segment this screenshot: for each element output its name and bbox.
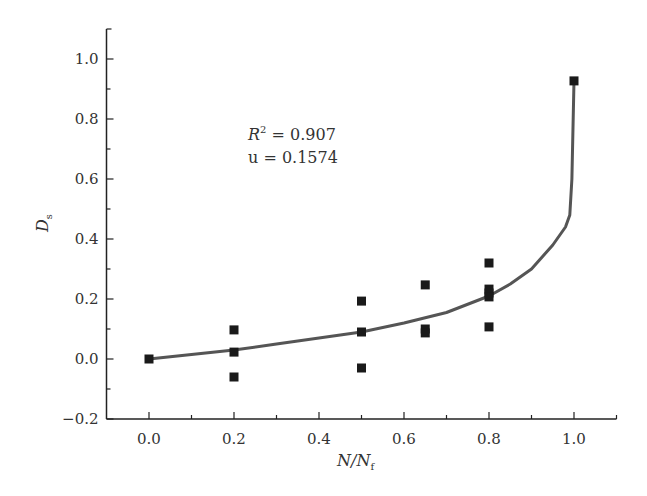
data-point-marker <box>421 328 430 337</box>
y-axis-label: Ds <box>33 214 54 233</box>
data-points <box>145 76 579 381</box>
annotation-r2: R2 = 0.907 <box>247 124 336 144</box>
y-tick-label: 0.4 <box>75 230 99 248</box>
annotation-u: u = 0.1574 <box>248 148 338 167</box>
chart: 0.00.20.40.60.81.0−0.20.00.20.40.60.81.0… <box>0 0 647 496</box>
y-tick-label: −0.2 <box>62 410 98 428</box>
data-point-marker <box>485 322 494 331</box>
x-tick-label: 0.2 <box>222 430 246 448</box>
y-tick-label: 0.0 <box>75 350 99 368</box>
data-point-marker <box>145 355 154 364</box>
data-point-marker <box>570 76 579 85</box>
data-point-marker <box>421 280 430 289</box>
data-point-marker <box>485 259 494 268</box>
x-tick-label: 0.0 <box>137 430 161 448</box>
data-point-marker <box>485 292 494 301</box>
x-axis-label: N/Nf <box>336 451 375 472</box>
x-tick-label: 0.6 <box>392 430 416 448</box>
fit-line-path <box>149 81 574 359</box>
y-tick-label: 0.6 <box>75 170 99 188</box>
data-point-marker <box>230 373 239 382</box>
y-tick-label: 0.8 <box>75 110 99 128</box>
data-point-marker <box>357 297 366 306</box>
x-tick-label: 0.8 <box>477 430 501 448</box>
x-tick-label: 0.4 <box>307 430 331 448</box>
svg-text:Ds: Ds <box>33 214 54 233</box>
data-point-marker <box>230 325 239 334</box>
y-tick-label: 0.2 <box>75 290 99 308</box>
axes: 0.00.20.40.60.81.0−0.20.00.20.40.60.81.0 <box>62 29 616 448</box>
data-point-marker <box>357 328 366 337</box>
data-point-marker <box>357 364 366 373</box>
x-tick-label: 1.0 <box>562 430 586 448</box>
data-point-marker <box>230 348 239 357</box>
y-tick-label: 1.0 <box>75 50 99 68</box>
fit-curve <box>149 81 574 359</box>
